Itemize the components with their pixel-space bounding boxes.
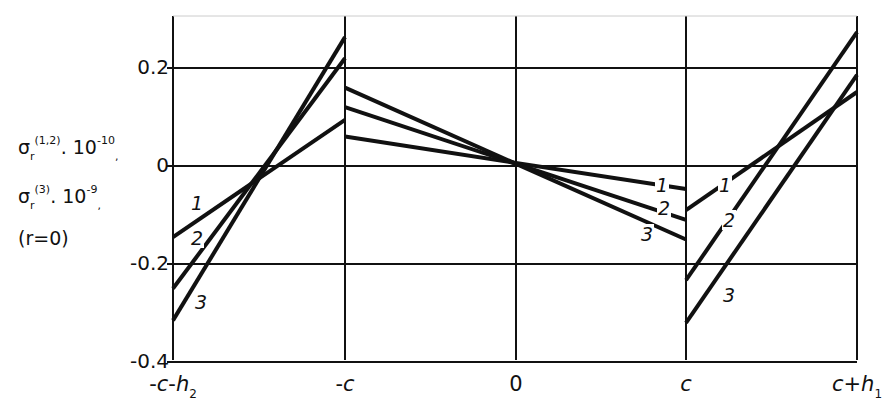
x-tick-label: -c <box>335 372 354 396</box>
curve-label-2: 2 <box>722 210 736 230</box>
x-tick-label: -c-h2 <box>149 372 197 401</box>
curve-label-2: 2 <box>657 198 671 218</box>
curve-label-3: 3 <box>722 285 736 305</box>
curve-label-3: 3 <box>194 292 208 312</box>
y-tick-label: 0 <box>156 153 169 177</box>
x-tick-label: 0 <box>509 372 522 396</box>
grid-lines <box>167 16 857 362</box>
y-axis-label-line1: σr(1,2). 10-10, <box>18 124 118 173</box>
curve-3-segment-0 <box>173 37 345 320</box>
y-tick-label: 0.2 <box>137 55 169 79</box>
curve-label-1: 1 <box>655 175 669 195</box>
y-axis-label-line3: (r=0) <box>18 222 118 255</box>
x-tick-label: c+h1 <box>832 372 882 401</box>
curve-3-segment-2 <box>686 75 857 323</box>
y-tick-label: -0.4 <box>130 349 169 373</box>
x-tick-label: c <box>680 372 692 396</box>
curve-2-segment-2 <box>686 32 857 280</box>
curve-2-segment-0 <box>173 58 345 288</box>
curve-label-2: 2 <box>190 228 204 248</box>
curve-label-1: 1 <box>190 193 204 213</box>
y-axis-label: σr(1,2). 10-10, σr(3). 10-9, (r=0) <box>18 124 118 255</box>
curve-label-1: 1 <box>718 175 732 195</box>
curve-label-3: 3 <box>640 224 654 244</box>
y-axis-label-line2: σr(3). 10-9, <box>18 173 118 222</box>
y-tick-label: -0.2 <box>130 251 169 275</box>
